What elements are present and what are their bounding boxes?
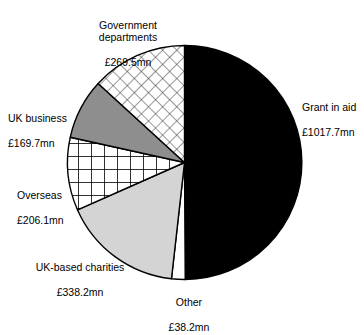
slice-label-overseas-value: £206.1mn [17,214,89,227]
slice-label-uk-business: UK business £169.7mn [8,99,80,162]
slice-label-uk-based-charities-value: £338.2mn [28,286,132,299]
slice-label-overseas: Overseas £206.1mn [17,176,89,239]
slice-label-uk-business-name: UK business [8,112,80,125]
slice-label-grant-in-aid: Grant in aid £1017.7mn [302,88,364,151]
slice-label-uk-based-charities: UK-based charities £338.2mn [28,248,132,311]
slice-label-uk-business-value: £169.7mn [8,137,80,150]
slice-label-other: Other £38.2mn [152,283,226,335]
slice-label-other-name: Other [152,296,226,309]
slice-label-government-departments-value: £269.5mn [72,56,184,69]
slice-label-grant-in-aid-value: £1017.7mn [302,126,364,139]
slice-label-uk-based-charities-name: UK-based charities [28,261,132,274]
slice-label-government-departments-name: Government departments [72,19,184,44]
slice-label-grant-in-aid-name: Grant in aid [302,101,364,114]
pie-slice-grant-in-aid [185,45,302,279]
slice-label-other-value: £38.2mn [152,321,226,334]
slice-label-government-departments: Government departments £269.5mn [72,6,184,81]
slice-label-overseas-name: Overseas [17,189,89,202]
